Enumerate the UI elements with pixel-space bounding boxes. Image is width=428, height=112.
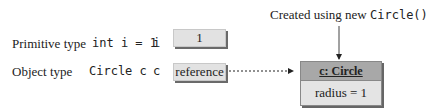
primitive-declaration: int i = 1 [92, 36, 157, 50]
primitive-type-label: Primitive type [12, 36, 86, 52]
reference-value-box: reference [173, 63, 226, 81]
primitive-value-box: 1 [173, 29, 226, 47]
object-field: radius = 1 [301, 81, 381, 105]
object-name: c: Circle [319, 64, 362, 78]
object-variable: c [153, 64, 160, 78]
object-declaration: Circle c [89, 64, 147, 78]
object-type-label: Object type [12, 64, 72, 80]
primitive-variable: i [153, 36, 160, 50]
circle-object: c: Circle radius = 1 [300, 61, 382, 106]
object-header: c: Circle [301, 62, 381, 81]
